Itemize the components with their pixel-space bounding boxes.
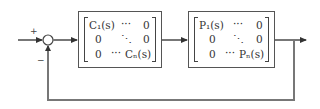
controller-c1: C₁(s) — [89, 19, 115, 31]
plant-ddots: ⋱ — [233, 33, 244, 45]
controller-ddots: ⋱ — [121, 33, 132, 45]
plus-sign: + — [30, 26, 38, 36]
controller-matrix: C₁(s) ··· 0 0 ⋱ 0 0 ··· Cₙ(s) — [84, 17, 156, 62]
controller-zero: 0 — [143, 33, 150, 45]
controller-dots: ··· — [121, 18, 131, 30]
controller-cn: Cₙ(s) — [125, 48, 151, 60]
plant-pn: Pₙ(s) — [239, 48, 264, 60]
minus-sign: − — [37, 55, 45, 65]
plant-zero: 0 — [209, 48, 216, 60]
feedback-arrowhead — [45, 45, 51, 51]
controller-dots: ··· — [111, 47, 121, 59]
controller-zero: 0 — [143, 19, 150, 31]
plant-block: P₁(s) ··· 0 0 ⋱ 0 0 ··· Pₙ(s) — [188, 11, 275, 68]
plant-zero: 0 — [256, 19, 263, 31]
controller-zero: 0 — [95, 33, 102, 45]
plant-dots: ··· — [225, 47, 235, 59]
plant-zero: 0 — [209, 33, 216, 45]
plant-zero: 0 — [256, 33, 263, 45]
plant-matrix: P₁(s) ··· 0 0 ⋱ 0 0 ··· Pₙ(s) — [194, 17, 269, 62]
plant-p1: P₁(s) — [199, 19, 224, 31]
controller-block: C₁(s) ··· 0 0 ⋱ 0 0 ··· Cₙ(s) — [78, 11, 162, 68]
summing-junction — [43, 35, 53, 45]
plant-dots: ··· — [233, 18, 243, 30]
controller-zero: 0 — [95, 48, 102, 60]
